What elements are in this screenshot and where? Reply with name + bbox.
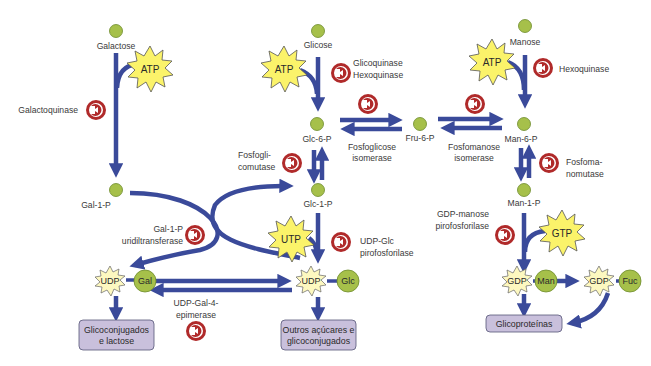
label-manose: Manose [510,37,541,47]
label-glicoquinase: Glicoquinase [353,58,403,68]
label-fosfoglicose-isomerase: isomerase [352,153,392,163]
fuc-sugar-label: Fuc [622,276,638,286]
product-boxes: Glicoconjugados e lactose Outros açúcare… [79,315,562,350]
label-glicose: Glicose [304,40,333,50]
udp-label-glc: UDP [301,276,320,286]
gtp-label: GTP [552,228,573,239]
atp-label-galactose: ATP [141,64,160,75]
atp-label-manose: ATP [483,57,502,68]
enzyme-icon-gdpman-pirofosforilase [497,227,514,244]
label-udpglc-pp-2: pirofosforilase [360,248,414,258]
label-fosfomanomutase-1: Fosfoma- [566,157,602,167]
enzyme-icon-fosfomanomutase [541,155,558,172]
box-glicoproteinas-label: Glicoproteínas [496,319,553,329]
udp-gal: UDP Gal [95,266,156,296]
box-outros-line2: glicoconjugados [287,336,351,346]
gdp-label-fuc: GDP [589,276,609,286]
label-gal1p-ut-1: Gal-1-P [153,224,183,234]
label-gdpman-pp-1: GDP-manose [437,209,489,219]
glc-sugar-label: Glc [341,276,355,286]
label-fosfoglicose: Fosfoglicose [348,142,396,152]
metabolite-dot-man1p [518,184,531,197]
label-galactose: Galactose [97,41,136,51]
label-fosfomanose: Fosfomanose [448,142,500,152]
atp-starburst-manose: ATP [469,39,515,85]
label-galactoquinase: Galactoquinase [18,105,78,115]
enzyme-icon-fosfoglicomutase [284,155,301,172]
gdp-fuc: GDP Fuc [584,266,641,296]
metabolite-dot-gal1p [110,184,123,197]
gtp-starburst: GTP [539,210,585,256]
label-fru6p: Fru-6-P [405,133,434,143]
enzyme-icon-fosfomanose-isomerase [467,96,484,113]
label-hexoquinase-glc: Hexoquinase [353,70,403,80]
label-fosfomanose-isomerase: isomerase [454,153,494,163]
utp-label: UTP [281,234,301,245]
metabolite-dot-glc6p [311,118,324,131]
enzyme-icon-gal1p-uridiltransferase [187,227,204,244]
arrow-gdpfuc-to-glicoproteinas [572,293,608,323]
diagram-canvas: Galactose Glicose Manose Glc-6-P Fru-6-P… [0,0,651,366]
enzyme-icon-hexoquinase [535,60,552,77]
box-glicoconjugados-lactose: Glicoconjugados e lactose [79,320,154,350]
enzyme-icon-glicoquinase [333,65,350,82]
label-man6p: Man-6-P [505,134,538,144]
atp-starburst-glicose: ATP [261,46,307,92]
enzyme-icon-galactoquinase [88,102,105,119]
man-sugar-label: Man [537,276,555,286]
gdp-label-man: GDP [507,276,527,286]
udp-label-gal: UDP [100,276,119,286]
box-glicoproteinas: Glicoproteínas [486,315,562,332]
label-epimerase-2: epimerase [176,310,216,320]
label-glc6p: Glc-6-P [302,134,331,144]
box-outros-line1: Outros açúcares e [283,325,355,335]
atp-label-glicose: ATP [275,64,294,75]
metabolite-dot-galactose [110,25,123,38]
label-fosfoglicomutase-1: Fosfogli- [238,150,271,160]
label-gdpman-pp-2: pirofosforilase [436,221,490,231]
metabolite-dot-glc1p [312,184,325,197]
label-gal1p-ut-2: uridiltransferase [122,236,183,246]
label-epimerase-1: UDP-Gal-4- [174,298,219,308]
enzyme-icon-udpgal-epimerase [188,323,205,340]
enzyme-icon-udpglc-pirofosforilase [333,234,350,251]
label-hexoquinase-man: Hexoquinase [559,64,609,74]
label-gal1p: Gal-1-P [81,200,111,210]
box-outros-acucares: Outros açúcares e glicoconjugados [281,320,356,350]
enzyme-icon-fosfoglicose-isomerase [360,96,377,113]
label-udpglc-pp-1: UDP-Glc [360,236,395,246]
box-glicoconjugados-line1: Glicoconjugados [84,325,150,335]
gdp-man: GDP Man [502,266,557,296]
label-fosfomanomutase-2: nomutase [566,169,604,179]
label-man1p: Man-1-P [508,198,541,208]
gal-sugar-label: Gal [138,276,152,286]
label-fosfoglicomutase-2: comutase [238,162,275,172]
metabolite-dot-glicose [312,25,325,38]
metabolite-dot-manose [519,20,532,33]
metabolite-dot-fru6p [414,118,427,131]
box-glicoconjugados-line2: e lactose [99,336,134,346]
label-glc1p: Glc-1-P [303,199,332,209]
atp-starburst-galactose: ATP [127,46,173,92]
metabolite-dot-man6p [518,118,531,131]
glycosylation-pathway-diagram: Galactose Glicose Manose Glc-6-P Fru-6-P… [0,0,651,366]
